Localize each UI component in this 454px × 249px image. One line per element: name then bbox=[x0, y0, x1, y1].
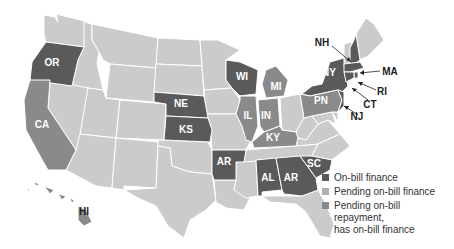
state-CT[interactable] bbox=[344, 72, 354, 82]
label-IN: IN bbox=[261, 110, 271, 121]
label-CA: CA bbox=[35, 119, 49, 130]
state-ND[interactable] bbox=[156, 38, 202, 66]
state-MS[interactable] bbox=[234, 160, 258, 198]
label-HI: HI bbox=[79, 206, 89, 217]
label-NJ: NJ bbox=[351, 111, 364, 122]
state-CO[interactable] bbox=[116, 100, 166, 140]
label-KY: KY bbox=[266, 132, 280, 143]
label-IL: IL bbox=[244, 110, 253, 121]
label-NH: NH bbox=[315, 37, 329, 48]
label-NY: NY bbox=[322, 67, 336, 78]
state-HI[interactable] bbox=[28, 182, 92, 226]
arrowhead-NJ bbox=[344, 106, 349, 110]
legend-label: Pending on-bill finance bbox=[334, 186, 435, 198]
legend: On-bill finance Pending on-bill finance … bbox=[322, 172, 435, 238]
legend-label: Pending on-bill repayment, has on-bill f… bbox=[334, 200, 415, 236]
label-RI: RI bbox=[377, 86, 387, 97]
label-MA: MA bbox=[382, 66, 398, 77]
legend-item-pending-repayment: Pending on-bill repayment, has on-bill f… bbox=[322, 200, 435, 236]
legend-swatch bbox=[322, 188, 329, 195]
state-RI[interactable] bbox=[354, 72, 358, 78]
state-SD[interactable] bbox=[154, 64, 204, 96]
label-KS: KS bbox=[179, 124, 193, 135]
label-WI: WI bbox=[236, 71, 248, 82]
label-SC: SC bbox=[307, 158, 321, 169]
arrowhead-MA bbox=[360, 70, 364, 75]
legend-label-line: Pending on-bill bbox=[334, 200, 400, 211]
state-WY[interactable] bbox=[106, 64, 156, 102]
state-WA[interactable] bbox=[44, 14, 88, 47]
legend-item-pending-on-bill-finance: Pending on-bill finance bbox=[322, 186, 435, 198]
label-NE: NE bbox=[174, 98, 188, 109]
legend-label: On-bill finance bbox=[334, 172, 398, 184]
state-ME[interactable] bbox=[356, 18, 384, 60]
state-IA[interactable] bbox=[204, 88, 240, 114]
label-AL: AL bbox=[261, 172, 274, 183]
label-CT: CT bbox=[363, 99, 376, 110]
legend-item-on-bill-finance: On-bill finance bbox=[322, 172, 435, 184]
legend-swatch bbox=[322, 174, 329, 181]
state-NM[interactable] bbox=[112, 138, 158, 190]
state-MA[interactable] bbox=[344, 62, 364, 72]
legend-label-line: repayment, bbox=[334, 212, 384, 223]
label-PA: PN bbox=[314, 95, 328, 106]
label-GA: AR bbox=[284, 172, 299, 183]
legend-label-line: has on-bill finance bbox=[334, 224, 415, 235]
legend-swatch bbox=[322, 202, 329, 209]
label-OR: OR bbox=[45, 57, 61, 68]
label-AR: AR bbox=[217, 156, 232, 167]
label-MI: MI bbox=[270, 81, 281, 92]
state-MT[interactable] bbox=[92, 24, 158, 68]
